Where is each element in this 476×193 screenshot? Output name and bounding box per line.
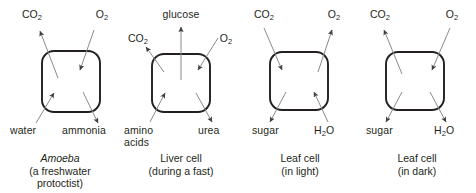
panel-leaf-cell-light: CO2 O2 sugar H2O Leaf cell (in light) [242, 0, 358, 193]
caption-line-2: (during a fast) [120, 165, 242, 178]
panel-amoeba: CO2 O2 water ammonia Amoeba (a freshwate… [0, 0, 120, 193]
caption-line-1: Liver cell [120, 152, 242, 165]
caption-leaf-cell-light: Leaf cell (in light) [242, 152, 358, 177]
label-o2-top-right: O2 [220, 32, 233, 46]
label-co2-top-left: CO2 [370, 8, 390, 22]
label-water: H2O [434, 124, 454, 138]
caption-line-1: Leaf cell [358, 152, 476, 165]
label-sugar: sugar [252, 124, 279, 136]
caption-line-2: (in light) [242, 165, 358, 178]
caption-line-2: (a freshwater [0, 165, 120, 178]
label-water: H2O [314, 124, 334, 138]
label-urea: urea [198, 124, 219, 136]
label-o2-top-right: O2 [96, 8, 109, 22]
label-ammonia: ammonia [62, 124, 106, 136]
label-glucose: glucose [163, 8, 200, 20]
label-amino-acids-line1: amino [124, 124, 153, 136]
caption-amoeba: Amoeba (a freshwater protoctist) [0, 152, 120, 190]
cell-membrane [270, 52, 328, 110]
label-amino-acids: amino acids [124, 124, 153, 148]
label-o2-top-right: O2 [328, 8, 341, 22]
panel-liver-cell: glucose CO2 O2 amino acids urea Liver ce… [120, 0, 242, 193]
caption-line-2: (in dark) [358, 165, 476, 178]
caption-liver-cell: Liver cell (during a fast) [120, 152, 242, 177]
cell-exchange-diagram: CO2 O2 water ammonia Amoeba (a freshwate… [0, 0, 476, 193]
label-water: water [10, 124, 36, 136]
label-co2-top-left: CO2 [254, 8, 274, 22]
caption-line-1: Amoeba [0, 152, 120, 165]
panel-leaf-cell-dark: CO2 O2 sugar H2O Leaf cell (in dark) [358, 0, 476, 193]
label-sugar: sugar [366, 124, 393, 136]
caption-leaf-cell-dark: Leaf cell (in dark) [358, 152, 476, 177]
label-o2-top-right: O2 [446, 8, 459, 22]
label-amino-acids-line2: acids [124, 136, 153, 148]
caption-line-3: protoctist) [0, 177, 120, 190]
label-co2-top-left: CO2 [128, 32, 148, 46]
caption-line-1: Leaf cell [242, 152, 358, 165]
label-co2-top-left: CO2 [22, 8, 42, 22]
